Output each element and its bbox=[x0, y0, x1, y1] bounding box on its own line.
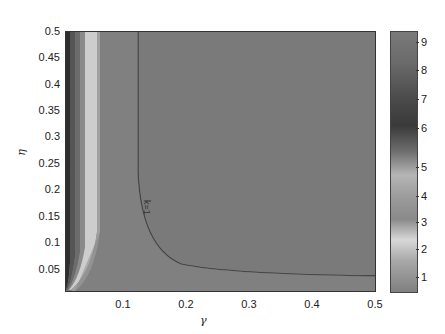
colorbar-tick: 9 bbox=[421, 36, 427, 48]
colorbar-tick: 8 bbox=[421, 64, 427, 76]
colorbar-tick: 6 bbox=[421, 122, 427, 134]
x-tick: 0.1 bbox=[108, 298, 138, 310]
y-tick: 0.1 bbox=[20, 236, 60, 248]
colorbar-tick: 2 bbox=[421, 243, 427, 255]
colorbar-tick: 4 bbox=[421, 190, 427, 202]
y-tick: 0.15 bbox=[20, 210, 60, 222]
y-axis-label: η bbox=[15, 149, 28, 156]
y-tick: 0.2 bbox=[20, 183, 60, 195]
x-tick: 0.2 bbox=[171, 298, 201, 310]
y-tick: 0.45 bbox=[20, 51, 60, 63]
x-axis-label: γ bbox=[200, 314, 207, 327]
contour-plot-area: k=1 bbox=[65, 31, 376, 292]
svg-text:k=1: k=1 bbox=[142, 200, 152, 215]
colorbar-tick: 3 bbox=[421, 216, 427, 228]
contour-fill: k=1 bbox=[66, 32, 376, 292]
colorbar bbox=[390, 31, 418, 293]
y-tick: 0.35 bbox=[20, 104, 60, 116]
y-tick: 0.4 bbox=[20, 78, 60, 90]
y-tick: 0.05 bbox=[20, 263, 60, 275]
y-tick: 0.3 bbox=[20, 130, 60, 142]
colorbar-tick: 7 bbox=[421, 93, 427, 105]
x-tick: 0.3 bbox=[234, 298, 264, 310]
y-tick: 0.25 bbox=[20, 157, 60, 169]
colorbar-tick: 5 bbox=[421, 161, 427, 173]
x-tick: 0.4 bbox=[297, 298, 327, 310]
x-tick: 0.5 bbox=[360, 298, 390, 310]
colorbar-tick: 1 bbox=[421, 271, 427, 283]
y-tick: 0.5 bbox=[20, 25, 60, 37]
